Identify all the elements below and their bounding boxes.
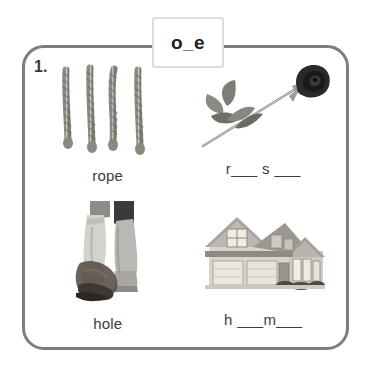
grid-cell-rope: rope [30,62,186,201]
rose-photo [193,62,333,154]
grid-cell-rose: r___ s ___ [186,62,342,201]
rope-photo [52,62,164,162]
picture-grid: rope [30,62,341,340]
cell-answer-rose[interactable]: r___ s ___ [226,160,301,177]
phonics-pattern-label: o_e [171,32,205,54]
boots-in-hole-photo [54,201,162,305]
house-photo [193,201,333,297]
cell-answer-house[interactable]: h ___m___ [224,311,303,328]
grid-cell-hole: hole [30,201,186,340]
phonics-pattern-box: o_e [152,17,224,68]
grid-cell-house: h ___m___ [186,201,342,340]
item-number: 1. [34,58,47,76]
cell-caption-rope: rope [92,167,123,184]
cell-caption-hole: hole [93,315,122,332]
